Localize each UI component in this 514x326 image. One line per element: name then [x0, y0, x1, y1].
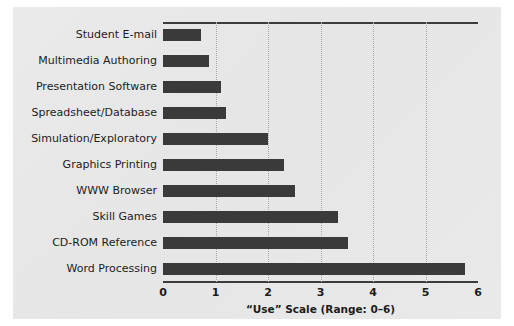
bar-row [163, 230, 478, 256]
chart-screenshot: Student E-mail Multimedia Authoring Pres… [0, 0, 514, 326]
bar-student-email [163, 29, 201, 41]
xtick-3: 3 [309, 286, 333, 299]
bar-presentation-software [163, 81, 221, 93]
xtick-6: 6 [466, 286, 490, 299]
xtick-2: 2 [256, 286, 280, 299]
bar-row [163, 152, 478, 178]
bar-word-processing [163, 263, 465, 275]
category-label-student-email: Student E-mail [0, 22, 157, 48]
x-axis-title: “Use” Scale (Range: 0–6) [163, 303, 478, 315]
xtick-5: 5 [414, 286, 438, 299]
category-label-presentation-software: Presentation Software [0, 74, 157, 100]
category-label-multimedia-authoring: Multimedia Authoring [0, 48, 157, 74]
bar-row [163, 48, 478, 74]
bar-cdrom-reference [163, 237, 348, 249]
bar-row [163, 204, 478, 230]
category-label-word-processing: Word Processing [0, 256, 157, 282]
bar-simulation-exploratory [163, 133, 268, 145]
bar-graphics-printing [163, 159, 284, 171]
bar-skill-games [163, 211, 338, 223]
category-label-www-browser: WWW Browser [0, 178, 157, 204]
bar-row [163, 178, 478, 204]
bar-row [163, 256, 478, 282]
category-axis-labels: Student E-mail Multimedia Authoring Pres… [0, 22, 157, 282]
xtick-4: 4 [361, 286, 385, 299]
bar-row [163, 74, 478, 100]
xtick-0: 0 [151, 286, 175, 299]
bar-www-browser [163, 185, 295, 197]
bar-spreadsheet-database [163, 107, 226, 119]
bar-row [163, 126, 478, 152]
bar-row [163, 100, 478, 126]
xtick-1: 1 [204, 286, 228, 299]
bar-multimedia-authoring [163, 55, 209, 67]
bar-row [163, 22, 478, 48]
category-label-cdrom-reference: CD-ROM Reference [0, 230, 157, 256]
category-label-graphics-printing: Graphics Printing [0, 152, 157, 178]
category-label-simulation-exploratory: Simulation/Exploratory [0, 126, 157, 152]
category-label-spreadsheet-database: Spreadsheet/Database [0, 100, 157, 126]
category-label-skill-games: Skill Games [0, 204, 157, 230]
plot-area [163, 22, 478, 282]
